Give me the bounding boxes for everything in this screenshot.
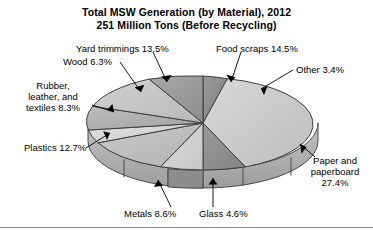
label-food-scraps: Food scraps 14.5%: [216, 43, 298, 54]
label-metals: Metals 8.6%: [124, 208, 176, 219]
pie-graphic: [0, 0, 373, 230]
pie-chart-figure: Total MSW Generation (by Material), 2012…: [0, 0, 373, 230]
label-paper-line-3: 27.4%: [300, 177, 370, 188]
label-rubber-leather-textiles: Rubber, leather, and textiles 8.3%: [14, 80, 92, 113]
bottom-divider: [0, 227, 373, 228]
label-glass: Glass 4.6%: [199, 208, 248, 219]
label-yard-trimmings: Yard trimmings 13.5%: [76, 43, 169, 54]
label-rubber-line-2: leather, and: [14, 91, 92, 102]
label-rubber-line-1: Rubber,: [14, 80, 92, 91]
label-paper-line-2: paperboard: [300, 166, 370, 177]
label-wood: Wood 6.3%: [63, 56, 112, 67]
pie-slices: [87, 76, 314, 170]
label-paper-line-1: Paper and: [300, 155, 370, 166]
label-plastics: Plastics 12.7%: [24, 142, 86, 153]
label-paper-and-paperboard: Paper and paperboard 27.4%: [300, 155, 370, 188]
label-other: Other 3.4%: [296, 64, 344, 75]
label-rubber-line-3: textiles 8.3%: [14, 102, 92, 113]
